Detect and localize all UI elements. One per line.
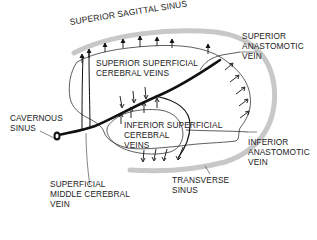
label-inferior-superficial-cerebral-veins: INFERIOR SUPERFICIAL CEREBRAL VEINS — [124, 120, 222, 150]
label-inferior-anastomotic-vein: INFERIOR ANASTOMOTIC VEIN — [248, 137, 310, 167]
label-superior-anastomotic-vein: SUPERIOR ANASTOMOTIC VEIN — [242, 31, 304, 61]
middle-vein-stem — [86, 133, 90, 185]
label-cavernous-sinus: CAVERNOUS SINUS — [10, 113, 63, 133]
frontal-vein-2 — [89, 52, 90, 128]
label-superior-superficial-cerebral-veins: SUPERIOR SUPERFICIAL CEREBRAL VEINS — [96, 58, 198, 78]
label-superficial-middle-cerebral-vein: SUPERFICIAL MIDDLE CEREBRAL VEIN — [50, 179, 130, 209]
lateral-arrows — [225, 63, 249, 118]
label-transverse-sinus: TRANSVERSE SINUS — [172, 175, 229, 195]
cavernous-sinus-lumen — [56, 134, 59, 138]
frontal-vein-1 — [82, 56, 83, 130]
